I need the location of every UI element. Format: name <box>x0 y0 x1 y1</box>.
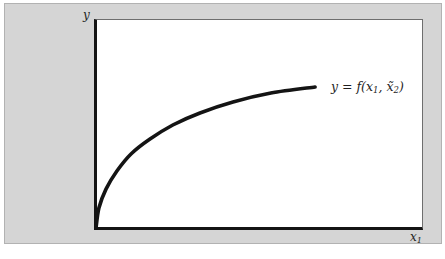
figure: y x1 y = f(x1, x̃2) <box>0 0 445 259</box>
plot-area <box>94 19 423 230</box>
x-axis-label-subscript: 1 <box>417 235 422 245</box>
curve-annotation-part1: y = f(x <box>331 79 373 94</box>
curve-annotation-part3: ) <box>399 79 404 94</box>
y-axis-label-text: y <box>83 8 90 22</box>
x-axis-label: x1 <box>410 231 422 244</box>
x-axis-label-base: x <box>410 230 417 244</box>
curve-annotation-part2: , x̃ <box>378 79 393 94</box>
y-axis-label: y <box>83 9 90 22</box>
curve-annotation: y = f(x1, x̃2) <box>331 80 404 94</box>
